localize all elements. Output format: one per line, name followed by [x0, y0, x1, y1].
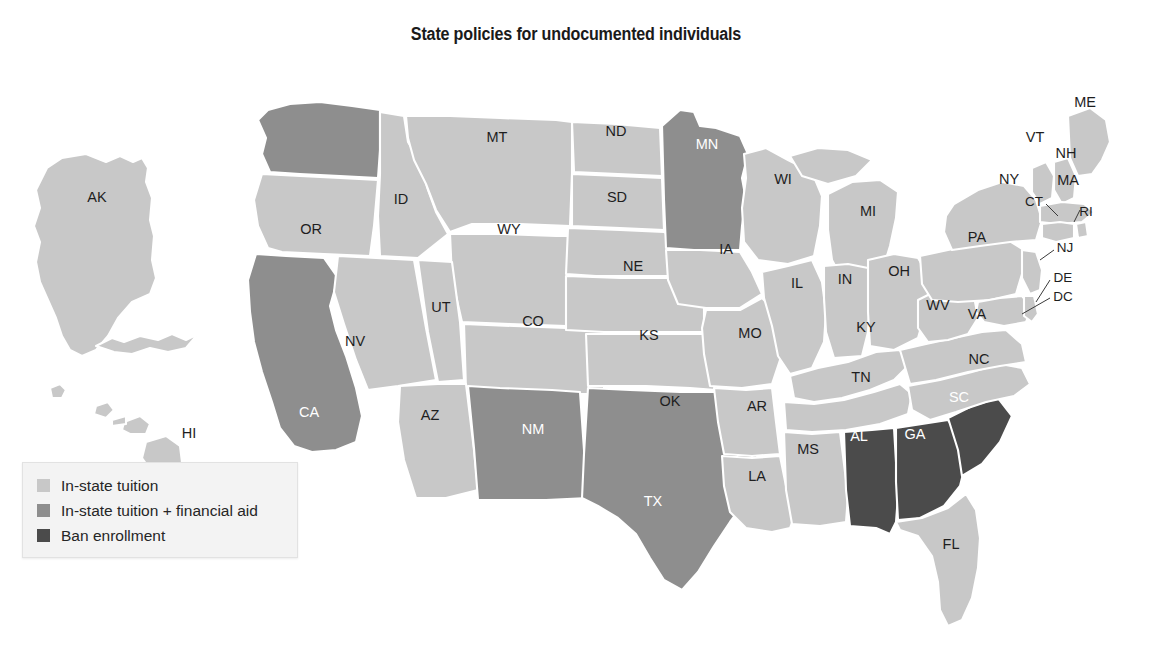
state-label-OR: OR [300, 221, 322, 237]
state-label-KY: KY [856, 319, 876, 335]
state-label-SC: SC [949, 389, 969, 405]
state-AK-aleutians [96, 334, 198, 354]
state-label-IL: IL [791, 275, 803, 291]
state-NY[interactable] [944, 182, 1042, 250]
legend-label-medium: In-state tuition + financial aid [61, 503, 258, 519]
state-label-AK: AK [87, 189, 107, 205]
state-WA[interactable] [258, 102, 380, 178]
state-label-RI: RI [1079, 204, 1093, 219]
state-MN[interactable] [662, 110, 748, 250]
state-label-VT: VT [1026, 129, 1045, 145]
state-label-NV: NV [345, 333, 365, 349]
state-NJ [1022, 250, 1042, 294]
state-label-ID: ID [394, 191, 409, 207]
legend-swatch-light [37, 479, 50, 492]
state-label-AZ: AZ [421, 407, 440, 423]
state-label-MA: MA [1057, 172, 1079, 188]
state-label-TN: TN [851, 369, 870, 385]
map-legend: In-state tuition In-state tuition + fina… [22, 462, 298, 558]
state-label-SD: SD [607, 189, 627, 205]
state-label-TX: TX [644, 493, 663, 509]
state-label-AL: AL [850, 428, 868, 444]
state-label-CA: CA [299, 404, 319, 420]
legend-item-in-state-tuition-financial-aid[interactable]: In-state tuition + financial aid [37, 498, 297, 523]
state-label-NJ: NJ [1057, 240, 1074, 255]
state-WY[interactable] [450, 234, 570, 326]
state-label-OH: OH [888, 263, 910, 279]
state-AK[interactable] [34, 154, 156, 356]
state-label-NM: NM [522, 421, 545, 437]
state-label-GA: GA [905, 426, 926, 442]
state-label-DE: DE [1054, 270, 1073, 285]
us-choropleth-map: AK HI OR CA NV ID MT WY UT CO AZ NM ND S… [0, 50, 1152, 648]
state-HI-molokai [112, 416, 126, 426]
state-label-WI: WI [774, 171, 792, 187]
legend-item-in-state-tuition[interactable]: In-state tuition [37, 473, 297, 498]
legend-swatch-medium [37, 504, 50, 517]
state-label-NC: NC [969, 351, 990, 367]
state-label-MN: MN [696, 136, 719, 152]
map-page: State policies for undocumented individu… [0, 0, 1152, 648]
state-label-FL: FL [943, 536, 960, 552]
legend-swatch-dark [37, 529, 50, 542]
state-label-LA: LA [748, 468, 766, 484]
state-NM[interactable] [468, 386, 588, 500]
state-label-NH: NH [1056, 145, 1077, 161]
state-label-UT: UT [431, 299, 450, 315]
state-label-KS: KS [639, 327, 658, 343]
state-label-IN: IN [838, 271, 853, 287]
state-PA[interactable] [920, 240, 1024, 302]
state-label-IA: IA [719, 241, 733, 257]
state-CO[interactable] [464, 324, 604, 394]
state-HI-kauai [50, 384, 66, 398]
state-label-CT: CT [1025, 194, 1043, 209]
state-label-NE: NE [623, 258, 643, 274]
state-label-DC: DC [1053, 289, 1073, 304]
state-label-CO: CO [522, 313, 544, 329]
state-label-PA: PA [968, 229, 987, 245]
state-ME[interactable] [1068, 108, 1110, 176]
state-label-VA: VA [968, 306, 987, 322]
state-label-WY: WY [497, 221, 521, 237]
legend-item-ban-enrollment[interactable]: Ban enrollment [37, 523, 297, 548]
leader-line-NJ [1040, 250, 1054, 260]
state-label-MI: MI [860, 203, 876, 219]
state-label-WV: WV [926, 297, 950, 313]
state-label-NY: NY [999, 171, 1019, 187]
state-label-ME: ME [1074, 94, 1096, 110]
legend-label-dark: Ban enrollment [61, 528, 165, 544]
state-label-OK: OK [660, 393, 681, 409]
state-label-AR: AR [747, 398, 767, 414]
legend-label-light: In-state tuition [61, 478, 158, 494]
state-RI [1076, 222, 1088, 238]
state-label-ND: ND [606, 123, 627, 139]
state-label-HI: HI [182, 425, 197, 441]
page-title: State policies for undocumented individu… [46, 24, 1106, 45]
state-label-MO: MO [738, 325, 761, 341]
state-AL[interactable] [844, 428, 898, 534]
state-OR[interactable] [254, 174, 378, 256]
state-IA[interactable] [666, 250, 762, 308]
state-label-MT: MT [487, 129, 508, 145]
state-AZ[interactable] [398, 384, 478, 498]
state-HI-oahu [94, 402, 114, 418]
state-label-MS: MS [797, 441, 819, 457]
